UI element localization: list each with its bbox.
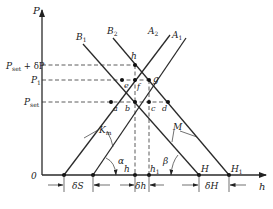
label-axis-H: H (200, 164, 209, 174)
label-point-b: b (125, 104, 130, 113)
label-point-f: f (136, 82, 142, 91)
label-pset-dp: Pset + δP (5, 61, 45, 72)
label-point-d: d (162, 104, 167, 113)
h-axis-label: h (259, 181, 265, 192)
line-A1-rising (93, 38, 186, 175)
diagram-canvas: P h 0 Pset + δP P1 Pset B1 B2 A2 A1 h e … (0, 0, 273, 209)
svg-text:P1: P1 (30, 75, 41, 86)
label-M: M (172, 122, 183, 132)
label-point-g: g (153, 74, 159, 84)
label-point-c: c (151, 104, 156, 113)
label-dh: δh (135, 181, 146, 191)
point-h (133, 63, 137, 67)
label-dH: δH (205, 181, 218, 191)
label-alpha: α (118, 156, 124, 166)
point-b (133, 100, 137, 104)
label-Km: Km (98, 125, 112, 136)
label-point-e: e (124, 81, 129, 90)
beta-arc (171, 155, 178, 175)
point-g (147, 78, 151, 82)
alpha-arc (106, 158, 116, 175)
label-B2: B2 (106, 26, 118, 37)
force-displacement-diagram: P h 0 Pset + δP P1 Pset B1 B2 A2 A1 h e … (0, 0, 273, 209)
label-axis-h1: h1 (150, 164, 160, 175)
label-dS: δS (72, 181, 84, 191)
svg-text:Pset + δP: Pset + δP (5, 61, 45, 72)
label-beta: β (162, 156, 168, 166)
svg-text:Pset: Pset (23, 97, 40, 108)
label-pset: Pset (23, 97, 40, 108)
origin-label: 0 (31, 171, 37, 181)
label-B1: B1 (75, 32, 86, 43)
label-axis-H1: H1 (230, 164, 243, 175)
label-point-h: h (131, 51, 137, 61)
line-B1-falling (83, 44, 199, 175)
label-A1: A1 (171, 30, 182, 41)
label-point-a: a (113, 104, 118, 113)
label-axis-h: h (124, 164, 130, 174)
p-axis-label: P (32, 5, 40, 16)
label-p1: P1 (30, 75, 41, 86)
km-leader-1 (84, 130, 98, 138)
label-A2: A2 (147, 26, 159, 37)
